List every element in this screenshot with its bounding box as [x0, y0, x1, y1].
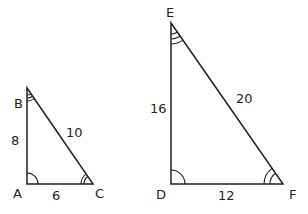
side-df-label: 12	[218, 188, 235, 203]
angle-a-arc	[27, 173, 38, 184]
side-bc-label: 10	[66, 125, 83, 140]
triangle-def-outline	[171, 23, 283, 184]
triangle-abc-outline	[27, 88, 93, 184]
side-de-label: 16	[150, 101, 167, 116]
similar-triangles-diagram: B A C 8 10 6 E D F 16 20 12	[0, 0, 308, 214]
vertex-b-label: B	[14, 96, 23, 111]
vertex-f-label: F	[289, 187, 296, 202]
vertex-c-label: C	[95, 186, 104, 201]
side-ab-label: 8	[11, 133, 19, 148]
triangle-abc: B A C 8 10 6	[11, 88, 104, 203]
vertex-e-label: E	[166, 5, 174, 20]
side-ac-label: 6	[52, 188, 60, 203]
vertex-a-label: A	[13, 186, 22, 201]
side-ef-label: 20	[236, 91, 253, 106]
angle-d-arc	[171, 170, 185, 184]
triangle-def: E D F 16 20 12	[150, 5, 296, 203]
vertex-d-label: D	[156, 187, 166, 202]
